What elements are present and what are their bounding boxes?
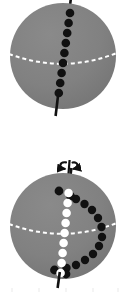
top-dot [62, 39, 71, 48]
top-dot [66, 9, 75, 18]
bottom-arc-dot [81, 256, 89, 264]
bottom-meridian-dot [59, 239, 68, 248]
bottom-meridian-dot [61, 219, 70, 228]
bottom-meridian-dot [57, 259, 66, 268]
top-panel-svg [0, 0, 128, 150]
top-dot [57, 69, 66, 78]
bottom-arc-dot [98, 233, 106, 241]
bottom-arc-dot [72, 261, 80, 269]
rotation-arrow-right-arc [73, 162, 78, 168]
bottom-panel-svg [0, 150, 128, 294]
bottom-cap-dot [55, 187, 64, 196]
bottom-arc-dot [94, 214, 102, 222]
caption-tick-row [0, 286, 128, 294]
bottom-meridian-dot [63, 199, 72, 208]
bottom-meridian-dot [60, 229, 69, 238]
top-dot [59, 59, 68, 68]
bottom-meridian-dot [58, 249, 67, 258]
top-dot [64, 19, 73, 28]
bottom-meridian-dot [64, 189, 73, 198]
top-dot [56, 79, 65, 88]
bottom-meridian-dot [62, 209, 71, 218]
top-dot [55, 89, 64, 98]
top-dot [63, 29, 72, 38]
bottom-panel [0, 150, 128, 294]
figure-root [0, 0, 128, 294]
top-panel [0, 0, 128, 150]
rotation-arrow-left-arc [60, 162, 66, 169]
top-dot [60, 49, 69, 58]
bottom-arc-dot [88, 206, 96, 214]
bottom-arc-dot [80, 200, 88, 208]
bottom-arc-dot [95, 242, 103, 250]
bottom-arc-dot [89, 250, 97, 258]
bottom-arc-dot [97, 223, 105, 231]
